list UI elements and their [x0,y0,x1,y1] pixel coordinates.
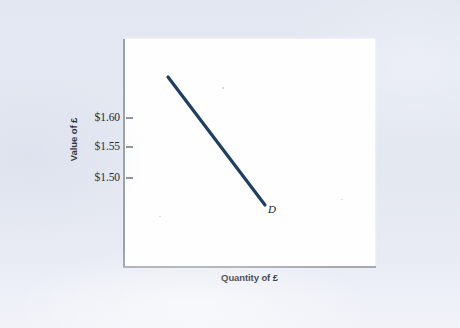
demand-curve-svg [0,0,460,328]
demand-curve-line [168,77,265,205]
chart-figure: $1.60 $1.55 $1.50 Value of £ Quantity of… [0,0,460,328]
demand-curve-label: D [268,203,276,215]
